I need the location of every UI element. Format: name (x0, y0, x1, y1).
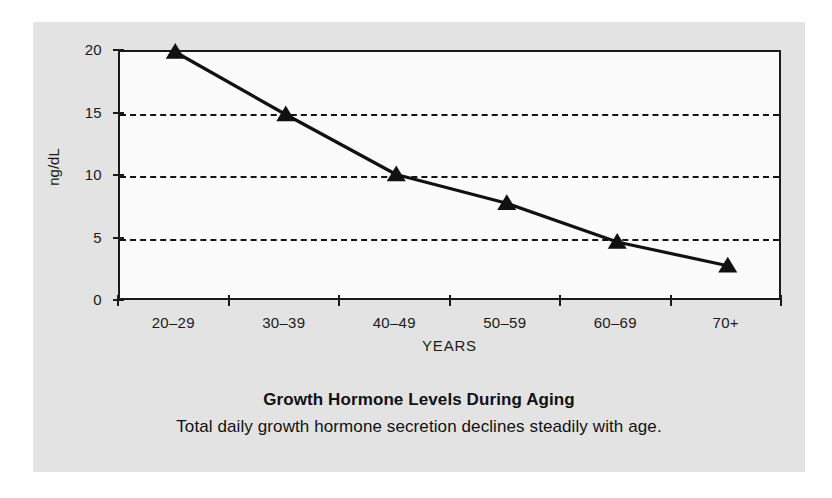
figure-panel: ng/dL 05101520 20–2930–3940–4950–5960–69… (33, 22, 805, 472)
x-tick-label-4: 60–69 (555, 314, 675, 331)
series-line (175, 52, 728, 266)
x-tick-6 (780, 295, 782, 306)
y-axis-title: ng/dL (45, 148, 62, 186)
plot-area (118, 50, 781, 300)
x-tick-label-2: 40–49 (334, 314, 454, 331)
x-axis-title: YEARS (118, 337, 781, 354)
x-tick-label-3: 50–59 (445, 314, 565, 331)
y-tick-label-15: 15 (62, 104, 102, 121)
y-tick-20 (113, 49, 124, 51)
x-tick-label-0: 20–29 (113, 314, 233, 331)
x-tick-2 (338, 295, 340, 306)
y-tick-10 (113, 174, 124, 176)
y-tick-label-20: 20 (62, 41, 102, 58)
y-tick-label-5: 5 (62, 229, 102, 246)
x-tick-label-5: 70+ (666, 314, 786, 331)
x-tick-4 (559, 295, 561, 306)
series-growth-hormone (120, 52, 783, 302)
x-tick-0 (117, 295, 119, 306)
x-tick-3 (449, 295, 451, 306)
caption: Growth Hormone Levels During Aging Total… (33, 390, 805, 437)
caption-title: Growth Hormone Levels During Aging (33, 390, 805, 410)
x-tick-5 (670, 295, 672, 306)
x-tick-label-1: 30–39 (224, 314, 344, 331)
data-point-marker-2 (387, 165, 406, 181)
caption-subtitle: Total daily growth hormone secretion dec… (33, 417, 805, 437)
x-tick-1 (228, 295, 230, 306)
y-tick-5 (113, 237, 124, 239)
y-tick-label-10: 10 (62, 166, 102, 183)
y-tick-15 (113, 112, 124, 114)
y-tick-label-0: 0 (62, 291, 102, 308)
data-point-marker-0 (166, 43, 185, 59)
data-point-marker-1 (276, 105, 295, 121)
